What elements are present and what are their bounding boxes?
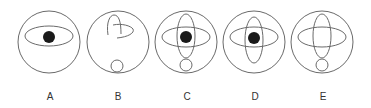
option-c[interactable]: C — [155, 11, 217, 102]
small-circle — [316, 59, 328, 71]
option-label-c: C — [183, 91, 190, 102]
option-e[interactable]: E — [291, 11, 353, 102]
small-circle — [111, 60, 123, 72]
option-b[interactable]: B — [87, 11, 149, 102]
option-a[interactable]: A — [18, 11, 80, 102]
outer-circle — [87, 11, 149, 73]
small-circle — [180, 59, 192, 71]
option-d[interactable]: D — [223, 11, 285, 102]
curved-arc — [113, 24, 133, 38]
option-label-a: A — [47, 91, 54, 102]
vertical-ellipse — [313, 14, 331, 58]
outer-circle — [291, 11, 353, 73]
option-label-e: E — [320, 91, 327, 102]
option-label-d: D — [251, 91, 258, 102]
option-label-b: B — [115, 91, 122, 102]
black-dot — [43, 31, 55, 43]
horizontal-ellipse — [298, 27, 346, 47]
options-diagram: A B C D E — [0, 0, 371, 108]
black-dot — [180, 31, 192, 43]
black-dot — [248, 32, 260, 44]
